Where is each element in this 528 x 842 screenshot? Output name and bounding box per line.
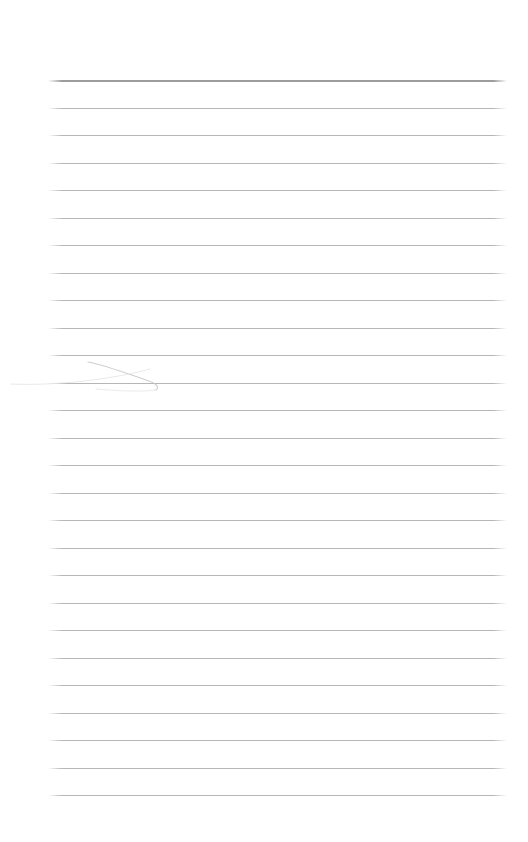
- rule-line-4: [48, 163, 507, 164]
- rule-line-17: [48, 520, 507, 521]
- rule-line-26: [48, 768, 507, 769]
- rule-line-10: [48, 328, 507, 329]
- rule-line-9: [48, 300, 507, 301]
- rule-line-13: [48, 410, 507, 411]
- rule-line-23: [48, 685, 507, 686]
- rule-line-8: [48, 273, 507, 274]
- rule-line-25: [48, 740, 507, 741]
- rule-line-5: [48, 190, 507, 191]
- faint-pencil-stroke-icon: [10, 344, 210, 404]
- rule-line-22: [48, 658, 507, 659]
- notepad-page: [0, 0, 528, 842]
- rule-line-20: [48, 603, 507, 604]
- rule-line-16: [48, 493, 507, 494]
- rule-line-27: [48, 795, 507, 796]
- rule-line-14: [48, 438, 507, 439]
- rule-line-7: [48, 245, 507, 246]
- rule-line-19: [48, 575, 507, 576]
- rule-line-3: [48, 135, 507, 136]
- rule-line-1: [48, 80, 507, 82]
- rule-line-11: [48, 355, 507, 356]
- rule-line-15: [48, 465, 507, 466]
- rule-line-24: [48, 713, 507, 714]
- rule-line-6: [48, 218, 507, 219]
- rule-line-2: [48, 108, 507, 109]
- rule-line-21: [48, 630, 507, 631]
- rule-line-12: [48, 383, 507, 384]
- rule-line-18: [48, 548, 507, 549]
